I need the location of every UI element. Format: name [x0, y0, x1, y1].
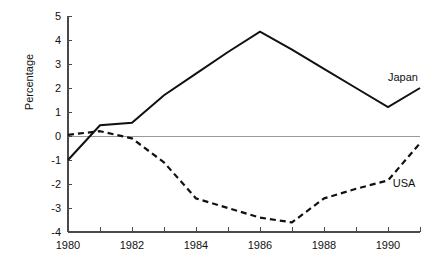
x-tick-label-1984: 1984 — [184, 239, 208, 251]
x-tick-label-1990: 1990 — [376, 239, 400, 251]
line-chart: 543210-1-2-3-4 198019821984198619881990 … — [0, 0, 440, 274]
x-tick-label-1980: 1980 — [56, 239, 80, 251]
series-line-usa — [68, 131, 420, 222]
x-tick-label-1986: 1986 — [248, 239, 272, 251]
x-axis-ticks — [68, 227, 420, 232]
chart-series-group — [68, 32, 420, 223]
y-tick-label-5: 5 — [55, 10, 61, 22]
y-axis-tick-labels: 543210-1-2-3-4 — [51, 10, 61, 238]
y-tick-label--2: -2 — [51, 178, 61, 190]
y-axis-ticks — [68, 16, 72, 232]
y-tick-label-3: 3 — [55, 58, 61, 70]
x-axis-tick-labels: 198019821984198619881990 — [56, 239, 400, 251]
series-label-usa: USA — [393, 177, 416, 189]
y-tick-label-4: 4 — [55, 34, 61, 46]
y-tick-label-2: 2 — [55, 82, 61, 94]
y-tick-label--4: -4 — [51, 226, 61, 238]
y-tick-label-1: 1 — [55, 106, 61, 118]
y-tick-label-0: 0 — [55, 130, 61, 142]
series-line-japan — [68, 32, 420, 160]
x-tick-label-1988: 1988 — [312, 239, 336, 251]
y-tick-label--1: -1 — [51, 154, 61, 166]
chart-container: 543210-1-2-3-4 198019821984198619881990 … — [0, 0, 440, 274]
y-axis-title: Percentage — [23, 54, 35, 110]
series-label-japan: Japan — [388, 71, 418, 83]
series-inline-labels: JapanUSA — [388, 71, 418, 189]
y-axis-title-text: Percentage — [23, 54, 35, 110]
y-tick-label--3: -3 — [51, 202, 61, 214]
x-tick-label-1982: 1982 — [120, 239, 144, 251]
